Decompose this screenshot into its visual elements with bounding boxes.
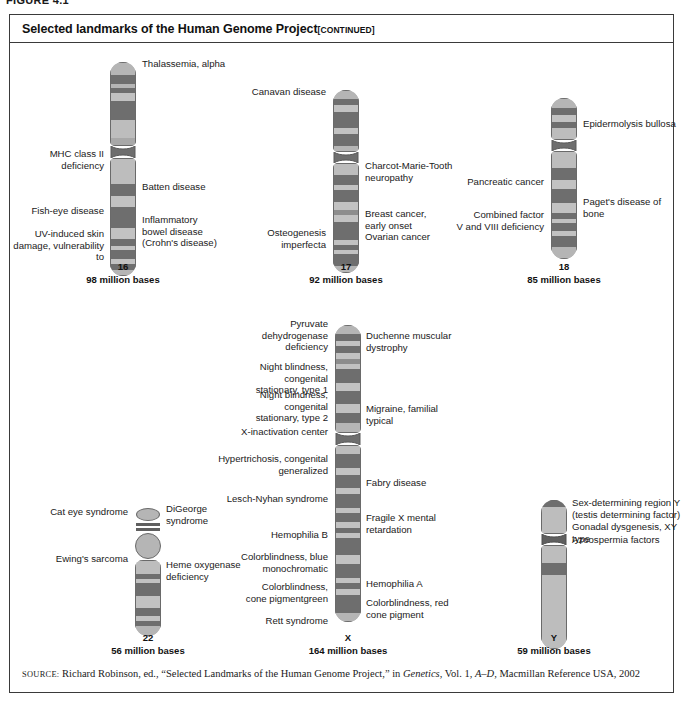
chromosome-x-label-duchenne-muscular-dystrophy: Duchenne muscular dystrophy (366, 330, 476, 353)
chromosome-22-stalk-upper (136, 523, 160, 526)
chromosome-18-p-bands (551, 98, 577, 140)
chromosome-x-label-x-inactivation-center: X-inactivation center (222, 426, 328, 438)
chromosome-17-label-osteogenesis-imperfecta: Osteogenesis imperfecta (218, 227, 326, 250)
source-italic-2: A–D (475, 668, 494, 679)
figure-title-text: Selected landmarks of the Human Genome P… (22, 22, 318, 36)
chromosome-x-caption: X164 million bases (288, 632, 408, 657)
source-text-3: , Macmillan Reference USA, 2002 (494, 668, 640, 679)
source-text-1: Richard Robinson, ed., “Selected Landmar… (59, 668, 403, 679)
figure-title: Selected landmarks of the Human Genome P… (22, 22, 375, 36)
chromosome-x-p-arm (335, 325, 361, 433)
chromosome-18-label-combined-factor-v-viii-deficiency: Combined factor V and VIII deficiency (424, 209, 544, 232)
chromosome-y-label-azoospermia-factors: Azoospermia factors (572, 534, 684, 546)
chromosome-16-centromere (110, 146, 136, 158)
chromosome-x-label-migraine-familial-typical: Migraine, familial typical (366, 403, 476, 426)
chromosome-18-size: 85 million bases (527, 274, 600, 285)
chromosome-x-label-rett-syndrome: Rett syndrome (210, 615, 328, 627)
chromosome-17-q-arm (333, 163, 359, 273)
source-italic-1: Genetics (403, 668, 440, 679)
chromosome-16-name: 16 (118, 261, 129, 272)
chromosome-18-label-pancreatic-cancer: Pancreatic cancer (424, 176, 544, 188)
chromosome-y-p-arm (541, 500, 567, 534)
chromosome-y-size: 59 million bases (517, 645, 590, 656)
chromosome-x-label-hypertrichosis-congenital-generalized: Hypertrichosis, congenital generalized (210, 453, 328, 476)
chromosome-x-label-lesch-nyhan-syndrome: Lesch-Nyhan syndrome (210, 493, 328, 505)
chromosome-22-caption: 2256 million bases (88, 632, 208, 657)
chromosome-18-label-pagets-disease-of-bone: Paget's disease of bone (583, 196, 683, 219)
chromosome-22-q-arm (135, 560, 161, 636)
chromosome-x-q-arm (335, 445, 361, 622)
chromosome-y-label-sex-determining-region-y: Sex-determining region Y (testis determi… (572, 497, 684, 520)
chromosome-17-centromere (333, 152, 359, 163)
chromosome-17-label-ovarian-cancer: Ovarian cancer (365, 231, 485, 243)
chromosome-17-size: 92 million bases (309, 274, 382, 285)
chromosome-y-name: Y (551, 632, 557, 643)
source-text-2: , Vol. 1, (440, 668, 475, 679)
chromosome-x-label-hemophilia-b: Hemophilia B (210, 529, 328, 541)
figure-number: FIGURE 4.1 (6, 0, 69, 6)
chromosome-22-q-bands (135, 560, 161, 636)
chromosome-22-label-cat-eye-syndrome: Cat eye syndrome (30, 506, 128, 518)
chromosome-22-size: 56 million bases (111, 645, 184, 656)
chromosome-x-name: X (345, 632, 351, 643)
chromosome-22-satellite (136, 508, 160, 521)
chromosome-16-size: 98 million bases (86, 274, 159, 285)
chromosome-17-label-canavan-disease: Canavan disease (200, 86, 326, 98)
chromosome-y-caption: Y59 million bases (494, 632, 614, 657)
chromosome-x-label-fragile-x-mental-retardation: Fragile X mental retardation (366, 512, 476, 535)
chromosome-16-p-bands (110, 62, 136, 146)
chromosome-16-p-arm (110, 62, 136, 146)
chromosome-22-name: 22 (143, 632, 154, 643)
chromosome-x-label-colorblindness-red-cone-pigment: Colorblindness, red cone pigment (366, 597, 476, 620)
chromosome-22-label-digeorge-syndrome: DiGeorge syndrome (166, 503, 262, 526)
chromosome-22-stalk-lower (136, 528, 160, 531)
chromosome-18-q-arm (551, 151, 577, 259)
chromosome-x-p-bands (335, 325, 361, 433)
chromosome-x-label-pyruvate-dehydrogenase-deficiency: Pyruvate dehydrogenase deficiency (222, 318, 328, 353)
chromosome-18-q-bands (551, 151, 577, 259)
chromosome-17-caption: 1792 million bases (286, 261, 406, 286)
chromosome-16-label-thalassemia-alpha: Thalassemia, alpha (142, 58, 262, 70)
chromosome-17-p-bands (333, 90, 359, 152)
chromosome-18-name: 18 (559, 261, 570, 272)
figure-page: FIGURE 4.1 Selected landmarks of the Hum… (0, 0, 685, 701)
chromosome-16-label-batten-disease: Batten disease (142, 181, 252, 193)
chromosome-x-centromere (335, 433, 361, 445)
chromosome-x-label-hemophilia-a: Hemophilia A (366, 578, 476, 590)
chromosome-18-caption: 1885 million bases (504, 261, 624, 286)
chromosome-16-label-mhc-class-ii-deficiency: MHC class II deficiency (12, 148, 104, 171)
chromosome-x-label-colorblindness-blue-monochromatic: Colorblindness, blue monochromatic (210, 551, 328, 574)
chromosome-16-caption: 1698 million bases (63, 261, 183, 286)
chromosome-22-p-arm (135, 533, 161, 559)
chromosome-17-p-arm (333, 90, 359, 152)
chromosome-x-label-colorblindness-cone-pigment-green: Colorblindness, cone pigmentgreen (210, 581, 328, 604)
chromosome-18-label-epidermolysis-bullosa: Epidermolysis bullosa (583, 118, 683, 130)
chromosome-y-p-bands (541, 500, 567, 534)
chromosome-x-q-bands (335, 445, 361, 622)
chromosome-x-size: 164 million bases (309, 645, 388, 656)
title-divider (10, 42, 673, 43)
chromosome-16-q-arm (110, 158, 136, 276)
chromosome-17-name: 17 (341, 261, 352, 272)
figure-title-continued: [CONTINUED] (318, 25, 375, 35)
chromosome-16-label-fish-eye-disease: Fish-eye disease (12, 205, 104, 217)
chromosome-y-centromere (541, 534, 567, 545)
chromosome-18-centromere (551, 140, 577, 151)
chromosome-16-label-uv-induced-skin-damage: UV-induced skin damage, vulnerability to (6, 228, 104, 263)
chromosome-22-label-ewings-sarcoma: Ewing's sarcoma (30, 553, 128, 565)
chromosome-16-q-bands (110, 158, 136, 276)
chromosome-x-label-night-blindness-type-2: Night blindness, congenital stationary, … (222, 389, 328, 424)
chromosome-17-q-bands (333, 163, 359, 273)
chromosome-18-p-arm (551, 98, 577, 140)
source-line: SOURCE: Richard Robinson, ed., “Selected… (22, 668, 640, 679)
source-prefix: SOURCE: (22, 670, 59, 679)
chromosome-x-label-fabry-disease: Fabry disease (366, 477, 476, 489)
